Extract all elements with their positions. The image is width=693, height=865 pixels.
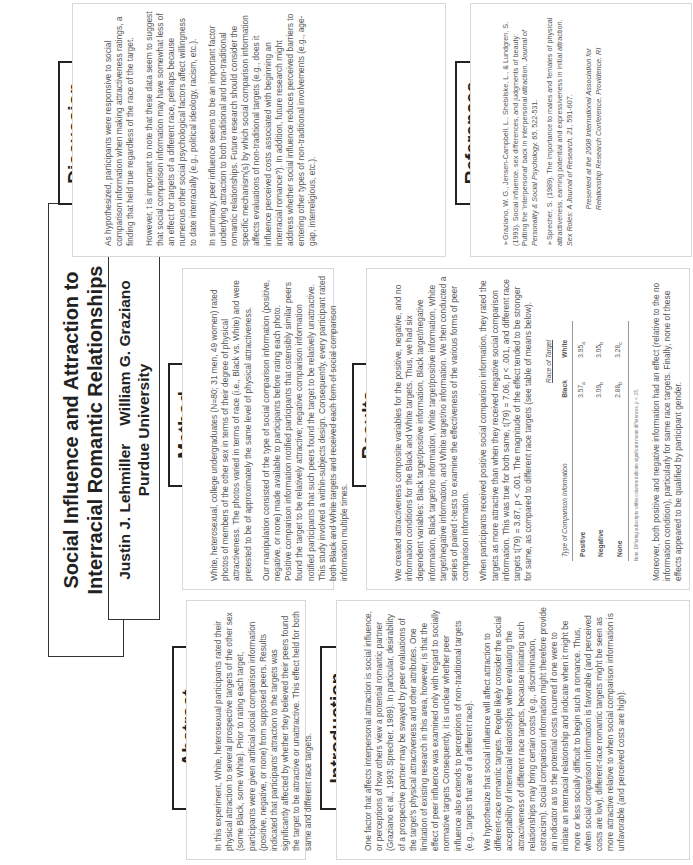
affiliation: Purdue University bbox=[134, 241, 153, 619]
table-row-header: Type of Comparison Information bbox=[557, 402, 573, 561]
authors: Justin J. LehmillerWilliam G. Graziano bbox=[115, 241, 134, 619]
discussion-panel: As hypothesized, participants were respo… bbox=[72, 3, 446, 257]
method-paragraph-1: White, heterosexual, college undergradua… bbox=[209, 275, 254, 581]
results-closing: Moreover, both positive and negative inf… bbox=[651, 275, 685, 581]
table-col-black: Black bbox=[557, 362, 573, 402]
discussion-paragraph-3: In summary, peer influence seems to be a… bbox=[207, 10, 319, 246]
method-paragraph-2: Our manipulation consisted of the type o… bbox=[261, 275, 351, 581]
introduction-paragraph-1: One factor that affects interpersonal at… bbox=[363, 607, 475, 851]
results-panel: We created attractiveness composite vari… bbox=[366, 268, 690, 590]
results-paragraph-1: We created attractiveness composite vari… bbox=[393, 275, 471, 581]
research-poster: Social Influence and Attraction to Inter… bbox=[0, 0, 693, 865]
table-row: Positive 3.57a 3.95a bbox=[572, 321, 591, 561]
presented-at: Presented at the 2008 International Asso… bbox=[584, 12, 603, 246]
results-paragraph-2: When participants received positive soci… bbox=[478, 275, 534, 581]
abstract-text: In this experiment, White, heterosexual … bbox=[213, 607, 314, 851]
introduction-paragraph-2: We hypothesize that social influence wil… bbox=[482, 607, 628, 851]
method-panel: White, heterosexual, college undergradua… bbox=[182, 268, 334, 590]
poster-title: Social Influence and Attraction to Inter… bbox=[59, 204, 107, 656]
introduction-panel: One factor that affects interpersonal at… bbox=[336, 600, 690, 860]
abstract-panel: In this experiment, White, heterosexual … bbox=[186, 600, 306, 860]
means-table: Race of Target Type of Comparison Inform… bbox=[541, 321, 629, 561]
title-line-2: Interracial Romantic Relationships bbox=[83, 204, 107, 656]
discussion-paragraph-2: However, t is important to note that the… bbox=[144, 10, 200, 246]
discussion-paragraph-1: As hypothesized, participants were respo… bbox=[103, 10, 137, 246]
title-line-1: Social Influence and Attraction to bbox=[59, 204, 83, 656]
reference-1: ➢Graziano, W. G., Jensen-Campbell, L., S… bbox=[501, 12, 539, 246]
table-caption: Race of Target bbox=[541, 321, 556, 402]
table-row: None 2.88b 3.28c bbox=[610, 321, 629, 561]
author-2: William G. Graziano bbox=[116, 280, 133, 425]
reference-2: ➢Sprecher, S. (1989). The importance to … bbox=[545, 12, 574, 246]
references-panel: ➢Graziano, W. G., Jensen-Campbell, L., S… bbox=[470, 3, 692, 257]
table-col-white: White bbox=[557, 321, 573, 362]
author-1: Justin J. Lehmiller bbox=[116, 444, 133, 580]
authors-box: Justin J. LehmillerWilliam G. Graziano P… bbox=[108, 240, 160, 620]
table-row: Negative 3.09b 3.05b bbox=[591, 321, 610, 561]
table-note: Note. Differing subscripts within column… bbox=[631, 275, 642, 561]
